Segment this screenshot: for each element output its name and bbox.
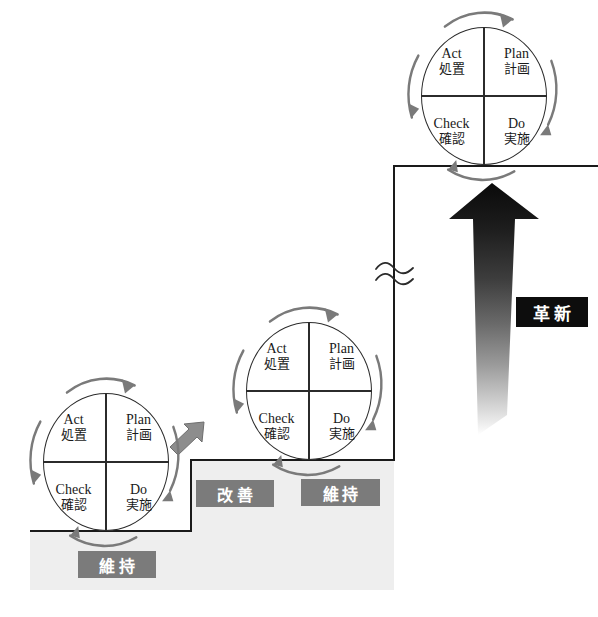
pdca-check-en: Check	[56, 483, 92, 497]
break-symbol-icon	[372, 255, 418, 295]
pdca-plan-en: Plan	[126, 413, 151, 427]
tag-innovation-label: 革新	[529, 300, 574, 325]
pdca-act-jp: 処置	[61, 428, 87, 441]
pdca-quadrant-act: Act 処置	[246, 322, 309, 391]
pdca-check-en: Check	[259, 412, 295, 426]
pdca-act-en: Act	[441, 47, 461, 61]
pdca-plan-jp: 計画	[504, 62, 530, 75]
pdca-check-jp: 確認	[439, 132, 465, 145]
pdca-quadrant-do: Do 実施	[484, 96, 547, 165]
tag-maintain-middle-label: 維持	[319, 481, 362, 505]
pdca-quadrant-act: Act 処置	[421, 27, 484, 96]
pdca-quadrant-plan: Plan 計画	[106, 393, 169, 462]
tag-maintain-bottom-label: 維持	[96, 553, 139, 577]
pdca-do-jp: 実施	[504, 132, 530, 145]
step-riser-upper	[393, 166, 395, 460]
step-line-top	[393, 165, 598, 167]
pdca-act-jp: 処置	[264, 357, 290, 370]
pdca-plan-jp: 計画	[126, 428, 152, 441]
pdca-act-en: Act	[266, 342, 286, 356]
step-riser-lower	[190, 460, 192, 532]
tag-improve: 改善	[196, 480, 274, 507]
pdca-staircase-diagram: 維持 改善 維持 革新	[0, 0, 598, 617]
tag-maintain-bottom: 維持	[78, 551, 156, 578]
pdca-quadrant-plan: Plan 計画	[309, 322, 372, 391]
pdca-do-en: Do	[333, 412, 350, 426]
pdca-check-jp: 確認	[61, 498, 87, 511]
pdca-quadrant-check: Check 確認	[246, 391, 309, 460]
pdca-quadrant-act: Act 処置	[43, 393, 106, 462]
pdca-quadrant-check: Check 確認	[421, 96, 484, 165]
pdca-check-jp: 確認	[264, 427, 290, 440]
pdca-do-en: Do	[508, 117, 525, 131]
pdca-check-en: Check	[434, 117, 470, 131]
pdca-plan-jp: 計画	[329, 357, 355, 370]
tag-maintain-middle: 維持	[301, 479, 380, 506]
tag-innovation: 革新	[516, 297, 588, 327]
pdca-plan-en: Plan	[329, 342, 354, 356]
kaizen-step-arrow-icon	[163, 418, 211, 458]
pdca-act-en: Act	[63, 413, 83, 427]
pdca-do-jp: 実施	[126, 498, 152, 511]
pdca-do-jp: 実施	[329, 427, 355, 440]
pdca-quadrant-do: Do 実施	[106, 462, 169, 531]
pdca-wheel-bottom: Act 処置 Plan 計画 Check 確認 Do 実施	[43, 393, 169, 531]
pdca-quadrant-check: Check 確認	[43, 462, 106, 531]
pdca-plan-en: Plan	[504, 47, 529, 61]
pdca-wheel-top: Act 処置 Plan 計画 Check 確認 Do 実施	[421, 27, 547, 165]
pdca-quadrant-do: Do 実施	[309, 391, 372, 460]
pdca-quadrant-plan: Plan 計画	[484, 27, 547, 96]
pdca-wheel-middle: Act 処置 Plan 計画 Check 確認 Do 実施	[246, 322, 372, 460]
pdca-do-en: Do	[130, 483, 147, 497]
tag-improve-label: 改善	[214, 482, 257, 506]
pdca-act-jp: 処置	[439, 62, 465, 75]
